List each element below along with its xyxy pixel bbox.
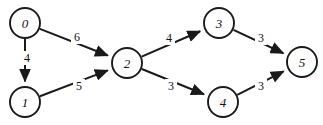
- graph-diagram: 4654333 012345: [0, 0, 323, 125]
- graph-node-5[interactable]: 5: [287, 47, 317, 77]
- edges-layer: [25, 29, 284, 96]
- node-label-4: 4: [220, 95, 227, 110]
- edge-weight-1-to-2: 5: [76, 79, 82, 93]
- graph-node-2[interactable]: 2: [112, 48, 142, 78]
- graph-canvas-svg: 4654333 012345: [0, 0, 323, 125]
- edge-weight-2-to-4: 3: [168, 79, 174, 93]
- edge-weights-layer: 4654333: [21, 30, 267, 93]
- edge-weight-2-to-3: 4: [166, 31, 172, 45]
- nodes-layer: 012345: [10, 8, 317, 117]
- node-label-1: 1: [22, 95, 29, 110]
- node-label-2: 2: [124, 56, 131, 71]
- node-label-3: 3: [215, 16, 223, 31]
- node-label-0: 0: [22, 16, 29, 31]
- edge-weight-4-to-5: 3: [258, 79, 264, 93]
- graph-node-4[interactable]: 4: [208, 87, 238, 117]
- edge-weight-3-to-5: 3: [258, 31, 264, 45]
- node-label-5: 5: [299, 55, 306, 70]
- edge-weight-0-to-2: 6: [74, 30, 80, 44]
- graph-node-0[interactable]: 0: [10, 8, 40, 38]
- edge-weight-0-to-1: 4: [24, 51, 30, 65]
- graph-node-3[interactable]: 3: [204, 8, 234, 38]
- graph-node-1[interactable]: 1: [10, 87, 40, 117]
